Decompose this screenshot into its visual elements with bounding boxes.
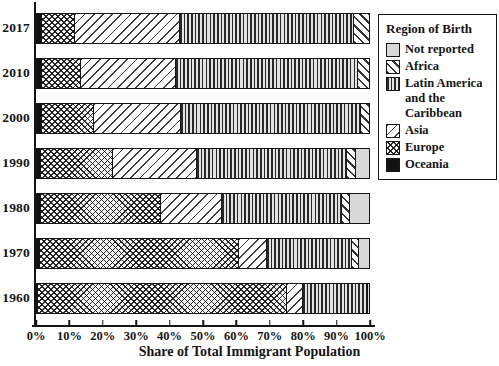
legend-swatch-oceania [386, 158, 400, 172]
legend-label-africa: Africa [405, 59, 439, 74]
year-label-1970: 1970 [0, 245, 30, 261]
x-tick-90% [336, 320, 338, 325]
x-tick-label-40%: 40% [157, 329, 182, 344]
x-tick-100% [369, 320, 371, 325]
x-tick-20% [102, 320, 104, 325]
x-tick-60% [236, 320, 238, 325]
legend-label-latin_america: Latin America and the Caribbean [405, 76, 490, 121]
legend: Region of Birth Not reportedAfricaLatin … [378, 14, 497, 180]
x-tick-10% [69, 320, 71, 325]
legend-swatch-asia [386, 124, 400, 138]
legend-items: Not reportedAfricaLatin America and the … [386, 42, 490, 172]
legend-item-europe: Europe [386, 140, 490, 155]
stacked-bar-chart: 2017201020001990198019701960 0%10%20%30%… [0, 0, 499, 366]
legend-label-europe: Europe [405, 140, 444, 155]
x-tick-label-30%: 30% [124, 329, 149, 344]
x-tick-label-80%: 80% [291, 329, 316, 344]
x-tick-80% [302, 320, 304, 325]
legend-item-oceania: Oceania [386, 157, 490, 172]
year-label-2010: 2010 [0, 65, 30, 81]
x-axis-tick-labels: 0%10%20%30%40%50%60%70%80%90%100% [36, 329, 370, 344]
legend-item-latin_america: Latin America and the Caribbean [386, 76, 490, 121]
x-axis-line [32, 325, 375, 327]
legend-swatch-not_reported [386, 43, 400, 57]
legend-label-oceania: Oceania [405, 157, 449, 172]
year-label-1990: 1990 [0, 155, 30, 171]
x-tick-0% [35, 320, 37, 325]
x-tick-label-70%: 70% [257, 329, 282, 344]
year-label-1960: 1960 [0, 290, 30, 306]
legend-label-asia: Asia [405, 123, 429, 138]
x-tick-label-10%: 10% [57, 329, 82, 344]
x-tick-label-60%: 60% [224, 329, 249, 344]
legend-label-not_reported: Not reported [405, 42, 474, 57]
x-tick-label-50%: 50% [191, 329, 216, 344]
legend-title: Region of Birth [386, 21, 490, 37]
legend-item-africa: Africa [386, 59, 490, 74]
legend-item-not_reported: Not reported [386, 42, 490, 57]
legend-item-asia: Asia [386, 123, 490, 138]
legend-swatch-europe [386, 141, 400, 155]
year-label-2017: 2017 [0, 20, 30, 36]
x-tick-label-100%: 100% [354, 329, 385, 344]
x-tick-label-20%: 20% [90, 329, 115, 344]
year-label-2000: 2000 [0, 110, 30, 126]
x-axis-title: Share of Total Immigrant Population [0, 344, 499, 360]
x-tick-30% [135, 320, 137, 325]
x-tick-label-90%: 90% [324, 329, 349, 344]
legend-swatch-africa [386, 60, 400, 74]
x-tick-label-0%: 0% [27, 329, 46, 344]
x-tick-70% [269, 320, 271, 325]
x-axis-ticks [36, 0, 370, 325]
x-tick-50% [202, 320, 204, 325]
year-label-1980: 1980 [0, 200, 30, 216]
x-tick-40% [169, 320, 171, 325]
legend-swatch-latin_america [386, 77, 400, 91]
